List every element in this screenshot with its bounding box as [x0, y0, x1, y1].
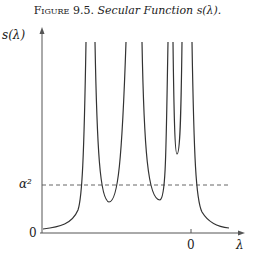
- x-axis-label: λ: [236, 238, 244, 252]
- secular-function-plot: [0, 0, 255, 267]
- y-axis-arrow-icon: [40, 27, 45, 34]
- alpha-squared-label: α²: [19, 177, 32, 191]
- x-axis-arrow-icon: [238, 231, 245, 236]
- origin-label: 0: [29, 226, 37, 240]
- secular-curve: [43, 42, 229, 229]
- x-zero-label: 0: [187, 238, 195, 252]
- y-axis-label: s(λ): [2, 28, 25, 42]
